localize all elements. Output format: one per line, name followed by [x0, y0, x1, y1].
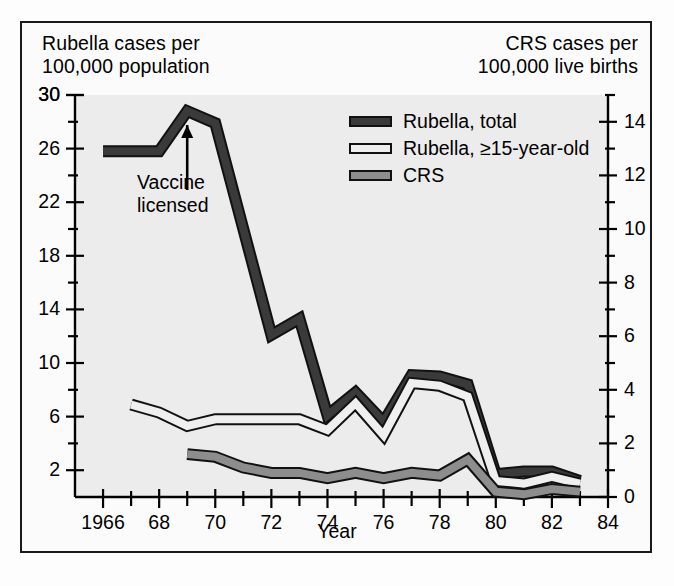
- chart-canvas: [0, 0, 674, 586]
- y-axis-right-tick-label: 8: [624, 273, 674, 293]
- vaccine-licensed-annotation: Vaccine licensed: [137, 171, 209, 217]
- y-axis-left-tick-label: 10: [0, 353, 60, 373]
- y-axis-left-tick-label: 6: [0, 407, 60, 427]
- y-axis-left-tick-label: 2: [0, 460, 60, 480]
- legend-swatch-icon: [349, 143, 392, 154]
- chart-legend: Rubella, total Rubella, ≥15-year-old CRS: [349, 108, 589, 189]
- x-axis-tick-label: 84: [568, 513, 648, 533]
- y-axis-right-tick-label: 6: [624, 326, 674, 346]
- y-axis-left-tick-label: 14: [0, 299, 60, 319]
- y-axis-right-tick-label: 2: [624, 433, 674, 453]
- y-axis-left-tick-label: 30: [0, 85, 60, 105]
- y-axis-right-tick-label: 4: [624, 380, 674, 400]
- legend-label: Rubella, ≥15-year-old: [403, 139, 589, 159]
- figure-root: Rubella cases per 100,000 population CRS…: [0, 0, 674, 586]
- legend-item-crs: CRS: [349, 162, 589, 189]
- y-axis-right-tick-label: 12: [624, 165, 674, 185]
- y-axis-right-tick-label: 14: [624, 112, 674, 132]
- legend-swatch-icon: [349, 170, 392, 181]
- y-axis-right-tick-label: 10: [624, 219, 674, 239]
- y-axis-left-tick-label: 22: [0, 192, 60, 212]
- y-axis-left-tick-label: 26: [0, 139, 60, 159]
- legend-item-rubella-15-year-old: Rubella, ≥15-year-old: [349, 135, 589, 162]
- y-axis-right-tick-label: 0: [624, 487, 674, 507]
- legend-label: CRS: [403, 166, 444, 186]
- legend-item-rubella-total: Rubella, total: [349, 108, 589, 135]
- y-axis-left-tick-label: 18: [0, 246, 60, 266]
- legend-label: Rubella, total: [403, 112, 517, 132]
- legend-swatch-icon: [349, 116, 392, 127]
